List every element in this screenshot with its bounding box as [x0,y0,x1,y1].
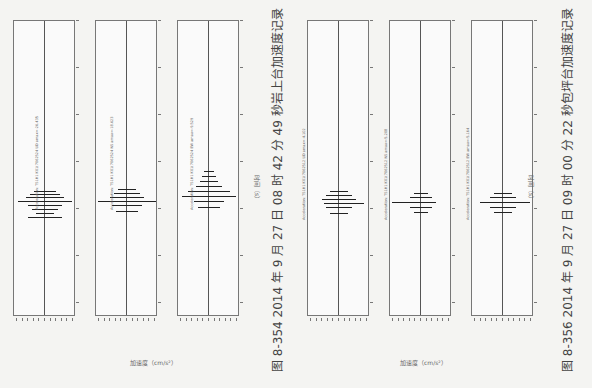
time-axis-ticks [76,20,82,316]
acceleration-axis-title: 加速度（cm/s²） [400,358,447,367]
trace-panel-ns [95,20,157,316]
time-axis-ticks [240,20,246,316]
amplitude-axis-ticks [307,318,369,330]
zero-line [420,21,421,315]
trace-label: Acceleration: TS1H1 K01(7062512 UD amax=… [302,128,306,220]
time-axis-ticks [158,20,164,316]
amplitude-axis-ticks [177,318,239,330]
trace-panel-ew [177,20,239,316]
amplitude-axis-ticks [471,318,533,330]
figure-caption: 图 8-356 2014 年 9 月 27 日 09 时 00 分 22 秒包坪… [558,8,575,372]
trace-label: Acceleration: TS1H1 K01(7062524 NS amax=… [110,116,114,210]
zero-line [44,21,45,315]
trace-panel-ud [307,20,369,316]
time-axis-ticks [370,20,376,316]
trace-label: Acceleration: TS1H1 K01(7062512 EW amax=… [466,128,470,220]
time-axis-title: 时间（s） [253,175,262,202]
trace-panel-ns [389,20,451,316]
zero-line [126,21,127,315]
acceleration-axis-title: 加速度（cm/s²） [130,358,177,367]
amplitude-axis-ticks [13,318,75,330]
figure-caption: 图 8-354 2014 年 9 月 27 日 08 时 42 分 49 秒岩上… [268,8,285,372]
amplitude-axis-ticks [95,318,157,330]
trace-label: Acceleration: TS1H1 K01(7062524 EW amax=… [190,118,194,210]
zero-line [338,21,339,315]
trace-panel-ud [13,20,75,316]
trace-label: Acceleration: TS1H1 K01(7062512 NS amax=… [384,129,388,220]
time-axis-ticks [534,20,540,316]
trace-panel-ew [471,20,533,316]
trace-label: Acceleration: TS1H1 K01(7062524 UD amax=… [35,116,39,210]
amplitude-axis-ticks [389,318,451,330]
zero-line [502,21,503,315]
time-axis-ticks [452,20,458,316]
zero-line [208,21,209,315]
